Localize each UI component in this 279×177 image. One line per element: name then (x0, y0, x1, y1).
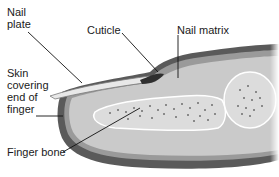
cuticle-leader (122, 33, 158, 72)
label-cuticle: Cuticle (87, 24, 121, 36)
label-finger-bone: Finger bone (7, 146, 66, 158)
label-skin-covering: Skin covering end of finger (7, 67, 49, 115)
label-nail-plate: Nail plate (7, 6, 31, 30)
fingertip-diagram: Nail plate Cuticle Nail matrix Skin cove… (0, 0, 279, 177)
label-nail-matrix: Nail matrix (177, 24, 229, 36)
